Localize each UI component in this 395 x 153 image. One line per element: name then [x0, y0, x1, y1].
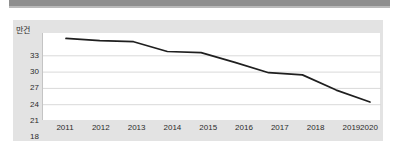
x-axis-tick-labels: 2011 2012 2013 2014 2015 2016 2017 2018 …: [42, 122, 380, 136]
y-tick-label: 18: [15, 133, 39, 141]
line-chart-svg: [43, 33, 381, 120]
y-tick-label: 30: [15, 68, 39, 76]
chart-screenshot: 만건 33 30 27 24 21 18 2011 2012 2013 2014…: [0, 0, 395, 153]
x-tick-label: 2018: [307, 122, 325, 134]
x-tick-label: 2016: [235, 122, 253, 134]
y-tick-label: 27: [15, 84, 39, 92]
x-tick-label: 2011: [56, 122, 73, 134]
x-tick-label: 2012: [92, 122, 110, 134]
x-tick-label: 2013: [128, 122, 146, 134]
x-tick-label: 2020: [360, 122, 378, 134]
y-axis-tick-labels: 33 30 27 24 21 18: [14, 33, 39, 120]
plot-area: [42, 33, 380, 120]
y-tick-label: 24: [15, 101, 39, 109]
y-tick-label: 33: [15, 52, 39, 60]
x-tick-label: 2015: [199, 122, 217, 134]
x-tick-label: 2014: [163, 122, 181, 134]
y-tick-label: 21: [15, 117, 39, 125]
data-series-line: [66, 38, 370, 102]
x-tick-label: 2019: [342, 122, 360, 134]
top-banner-shadow: [9, 6, 390, 8]
x-tick-label: 2017: [271, 122, 289, 134]
